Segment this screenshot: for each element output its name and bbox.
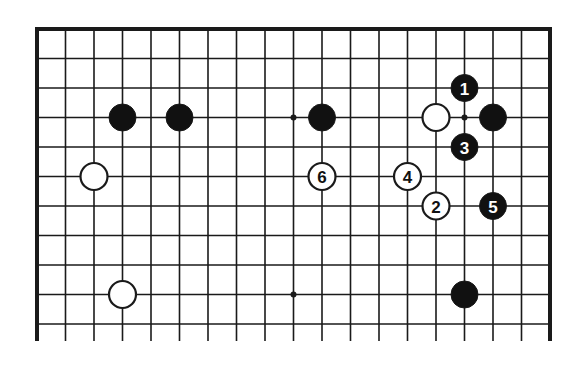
- white-stone-move-6: 6: [309, 163, 336, 190]
- white-stone-icon: [81, 163, 108, 190]
- black-stone: [166, 104, 193, 131]
- black-stone: [109, 104, 136, 131]
- move-number-label: 4: [403, 168, 413, 187]
- move-number-label: 2: [431, 198, 440, 217]
- move-number-label: 6: [317, 168, 326, 187]
- black-stone: [451, 281, 478, 308]
- star-point-icon: [291, 292, 297, 298]
- white-stone-icon: [423, 104, 450, 131]
- black-stone-icon: [480, 104, 507, 131]
- white-stone-icon: [109, 281, 136, 308]
- white-stone-move-4: 4: [394, 163, 421, 190]
- black-stone-icon: [309, 104, 336, 131]
- white-stone: [109, 281, 136, 308]
- black-stone-icon: [109, 104, 136, 131]
- star-point-icon: [462, 115, 468, 121]
- black-stone-icon: [451, 281, 478, 308]
- white-stone: [423, 104, 450, 131]
- move-number-label: 5: [488, 198, 497, 217]
- move-number-label: 1: [460, 80, 469, 99]
- move-number-label: 3: [460, 139, 469, 158]
- black-stone-icon: [166, 104, 193, 131]
- black-stone: [480, 104, 507, 131]
- white-stone: [81, 163, 108, 190]
- black-stone-move-1: 1: [451, 75, 478, 102]
- black-stone: [309, 104, 336, 131]
- star-point-icon: [291, 115, 297, 121]
- go-board: 123456: [0, 0, 588, 375]
- white-stone-move-2: 2: [423, 193, 450, 220]
- black-stone-move-5: 5: [480, 193, 507, 220]
- black-stone-move-3: 3: [451, 134, 478, 161]
